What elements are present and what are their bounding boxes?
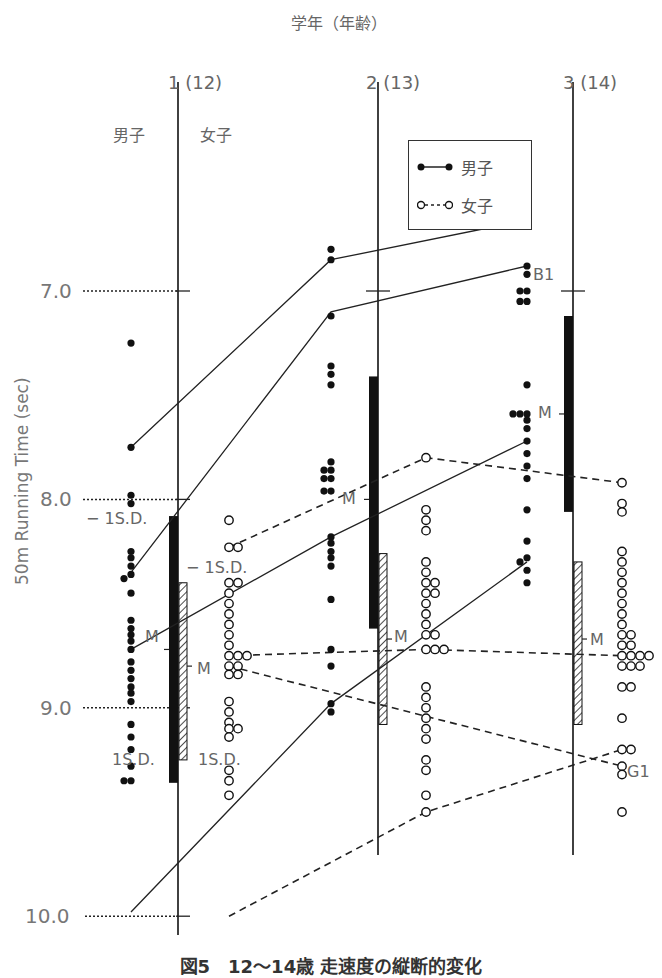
male-data-point	[127, 667, 134, 674]
female-data-point	[422, 568, 430, 576]
female-data-point	[618, 558, 626, 566]
male-data-point	[523, 554, 530, 561]
legend: 男子 女子	[408, 140, 532, 230]
female-data-point	[618, 662, 626, 670]
male-data-point	[127, 492, 134, 499]
female-data-point	[618, 770, 626, 778]
grade-2-label: 2 (13)	[366, 72, 420, 93]
female-data-point	[636, 652, 644, 660]
male-data-point	[127, 658, 134, 665]
male-data-point	[127, 721, 134, 728]
filled-circle-solid-line-icon	[417, 161, 453, 173]
male-data-point	[120, 777, 127, 784]
female-data-point	[225, 708, 233, 716]
female-data-point	[618, 652, 626, 660]
male-data-point	[127, 340, 134, 347]
y-axis-label: 50m Running Time (sec)	[12, 377, 32, 585]
male-data-point	[127, 554, 134, 561]
male-data-point	[327, 256, 334, 263]
male-data-point	[327, 467, 334, 474]
male-g1-minus-sd-label: − 1S.D.	[86, 509, 147, 528]
female-g1-plus-sd-label: 1S.D.	[198, 750, 241, 769]
female-data-point	[618, 683, 626, 691]
male-g1-mean-label: M	[145, 627, 159, 646]
male-g1-plus-sd-label: 1S.D.	[112, 750, 155, 769]
female-data-point	[431, 631, 439, 639]
legend-male-label: 男子	[461, 155, 493, 179]
male-data-point	[516, 298, 523, 305]
male-data-point	[127, 675, 134, 682]
male-data-point	[327, 548, 334, 555]
male-column-header: 男子	[113, 122, 145, 146]
male-data-point	[127, 571, 134, 578]
male-data-point	[523, 417, 530, 424]
male-data-point	[327, 371, 334, 378]
b1-label: B1	[533, 265, 554, 284]
legend-item-male: 男子	[417, 155, 493, 179]
female-data-point	[225, 631, 233, 639]
female-data-point	[225, 516, 233, 524]
male-data-point	[509, 410, 516, 417]
male-data-point	[327, 312, 334, 319]
legend-item-female: 女子	[417, 193, 493, 217]
male-data-point	[120, 575, 127, 582]
female-data-point	[422, 683, 430, 691]
female-data-point	[618, 745, 626, 753]
female-data-point	[422, 704, 430, 712]
male-data-point	[127, 562, 134, 569]
g1-label: G1	[627, 762, 650, 781]
male-data-point	[327, 663, 334, 670]
female-data-point	[225, 579, 233, 587]
female-data-point	[234, 543, 242, 551]
female-column-header: 女子	[200, 122, 232, 146]
male-data-point	[523, 462, 530, 469]
female-data-point	[422, 599, 430, 607]
female-data-point	[636, 662, 644, 670]
female-sd-bar	[379, 554, 387, 725]
female-data-point	[627, 641, 635, 649]
grade-1-label: 1 (12)	[168, 72, 222, 93]
female-data-point	[422, 766, 430, 774]
male-data-point	[523, 262, 530, 269]
y-tick-7: 7.0	[40, 279, 72, 303]
male-data-point	[127, 777, 134, 784]
female-data-point	[234, 652, 242, 660]
female-data-point	[431, 589, 439, 597]
female-data-point	[225, 662, 233, 670]
female-g2-mean-label: M	[394, 627, 408, 646]
female-data-point	[225, 543, 233, 551]
female-data-point	[234, 670, 242, 678]
female-data-point	[225, 697, 233, 705]
female-data-point	[422, 610, 430, 618]
female-data-point	[422, 558, 430, 566]
male-data-point	[327, 554, 334, 561]
female-data-point	[234, 579, 242, 587]
female-data-point	[618, 579, 626, 587]
male-data-point	[320, 487, 327, 494]
female-data-point	[225, 599, 233, 607]
male-data-point	[516, 287, 523, 294]
male-data-point	[127, 683, 134, 690]
male-data-point	[127, 638, 134, 645]
female-data-point	[618, 762, 626, 770]
male-data-point	[516, 558, 523, 565]
female-data-point	[225, 610, 233, 618]
male-data-point	[127, 625, 134, 632]
male-data-point	[523, 271, 530, 278]
y-tick-10: 10.0	[25, 904, 70, 928]
male-data-point	[127, 733, 134, 740]
male-data-point	[127, 631, 134, 638]
male-data-point	[523, 537, 530, 544]
male-data-point	[127, 646, 134, 653]
female-data-point	[618, 479, 626, 487]
x-axis-title: 学年（年齢）	[0, 10, 662, 34]
male-data-point	[127, 444, 134, 451]
female-data-point	[422, 714, 430, 722]
male-data-point	[127, 690, 134, 697]
male-data-point	[523, 475, 530, 482]
female-data-point	[440, 645, 448, 653]
male-trajectory-line	[131, 562, 527, 912]
female-data-point	[225, 652, 233, 660]
male-data-point	[320, 467, 327, 474]
